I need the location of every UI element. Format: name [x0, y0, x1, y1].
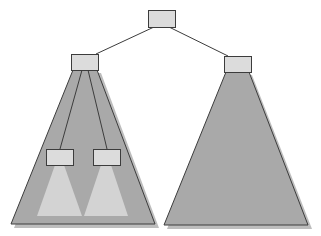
root-node [149, 11, 176, 28]
right-child-node [225, 57, 252, 73]
edge-root-right [169, 27, 228, 56]
edge-root-left [96, 27, 154, 54]
right-subtree [164, 72, 308, 225]
left-grandchild-2-node [94, 150, 121, 166]
tree-diagram [0, 0, 321, 236]
left-grandchild-1-node [47, 150, 74, 166]
left-subtree [11, 70, 155, 224]
left-child-node [72, 55, 99, 71]
